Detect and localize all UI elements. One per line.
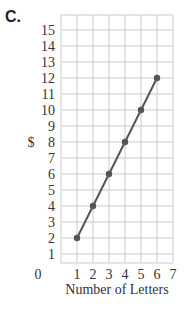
x-tick-label: 7 [170,267,177,282]
y-tick-label: 5 [48,183,55,198]
data-point [122,139,128,145]
y-tick-label: 2 [48,231,55,246]
y-tick-label: 1 [48,247,55,262]
x-tick-label: 4 [122,267,129,282]
line-chart: 1234567891011121314150 1234567 $ Number … [0,0,193,320]
grid-lines [61,15,173,263]
x-tick-label: 1 [74,267,81,282]
x-tick-label: 6 [154,267,161,282]
y-axis-ticks: 1234567891011121314150 [35,23,56,282]
x-axis-ticks: 1234567 [74,267,177,282]
data-point [138,107,144,113]
origin-label: 0 [35,267,42,282]
y-tick-label: 3 [48,215,55,230]
x-tick-label: 2 [90,267,97,282]
y-tick-label: 7 [48,151,55,166]
y-tick-label: 13 [41,55,55,70]
y-tick-label: 12 [41,71,55,86]
x-tick-label: 3 [106,267,113,282]
y-tick-label: 4 [48,199,55,214]
y-axis-label: $ [28,135,35,150]
data-point [74,235,80,241]
y-tick-label: 14 [41,39,55,54]
x-tick-label: 5 [138,267,145,282]
y-tick-label: 9 [48,119,55,134]
x-axis-label: Number of Letters [65,282,168,297]
data-point [90,203,96,209]
y-tick-label: 11 [42,87,55,102]
y-tick-label: 10 [41,103,55,118]
data-point [154,75,160,81]
y-tick-label: 15 [41,23,55,38]
y-tick-label: 8 [48,135,55,150]
y-tick-label: 6 [48,167,55,182]
data-point [106,171,112,177]
